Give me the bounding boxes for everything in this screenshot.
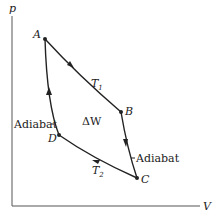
point-d [57,133,61,137]
point-d-label: D [47,132,57,145]
adiabat-right-label: Adiabat [135,152,180,165]
p-axis-label: p [9,2,16,15]
isotherm-t1 [45,39,121,112]
point-c [135,176,139,180]
v-axis-label: V [203,200,212,213]
point-a [43,37,47,41]
adiabat-left-label: Adiabat [13,118,58,131]
point-c-label: C [141,173,150,186]
point-b [119,110,123,114]
arrow-ab-icon [67,61,74,68]
carnot-diagram: p V A B C D T1 T2 ΔW Adiabat Adiabat [0,0,221,217]
point-a-label: A [32,28,41,41]
arrow-da-icon [46,87,52,95]
t1-label: T1 [91,77,103,92]
point-b-label: B [124,105,133,118]
adiabat-bc [121,112,137,178]
work-label: ΔW [82,115,102,128]
t2-label: T2 [92,164,104,179]
